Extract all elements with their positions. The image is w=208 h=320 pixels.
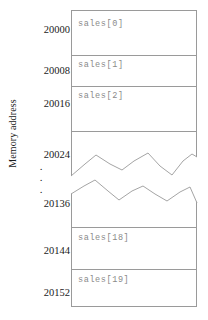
cell-label-sales-1: sales[1]: [78, 61, 124, 70]
ellipsis-dot-1: .: [24, 161, 70, 172]
cell-label-sales-19: sales[19]: [78, 276, 129, 285]
address-label-20144: 20144: [24, 246, 70, 257]
memory-layout-diagram: Memory address 20000 20008 20016 20024 .…: [0, 0, 208, 320]
address-label-20152: 20152: [24, 288, 70, 299]
cell-divider-2: [72, 131, 196, 132]
cell-divider-0: [72, 55, 196, 56]
axis-title-memory-address: Memory address: [7, 74, 18, 194]
address-label-20136: 20136: [24, 199, 70, 210]
cell-label-sales-0: sales[0]: [78, 20, 124, 29]
cell-divider-1: [72, 86, 196, 87]
address-label-column: 20000 20008 20016 20024 . . . 20136 2014…: [24, 0, 70, 320]
ellipsis-dot-2: .: [24, 172, 70, 183]
ellipsis-dot-3: .: [24, 184, 70, 195]
address-label-20016: 20016: [24, 99, 70, 110]
cell-label-sales-2: sales[2]: [78, 92, 124, 101]
cell-divider-3: [72, 227, 196, 228]
cell-divider-4: [72, 269, 196, 270]
address-label-20000: 20000: [24, 25, 70, 36]
cell-label-sales-18: sales[18]: [78, 234, 129, 243]
address-label-20024: 20024: [24, 150, 70, 161]
memory-block: sales[0] sales[1] sales[2] sales[18] sal…: [71, 10, 197, 307]
address-label-20008: 20008: [24, 66, 70, 77]
